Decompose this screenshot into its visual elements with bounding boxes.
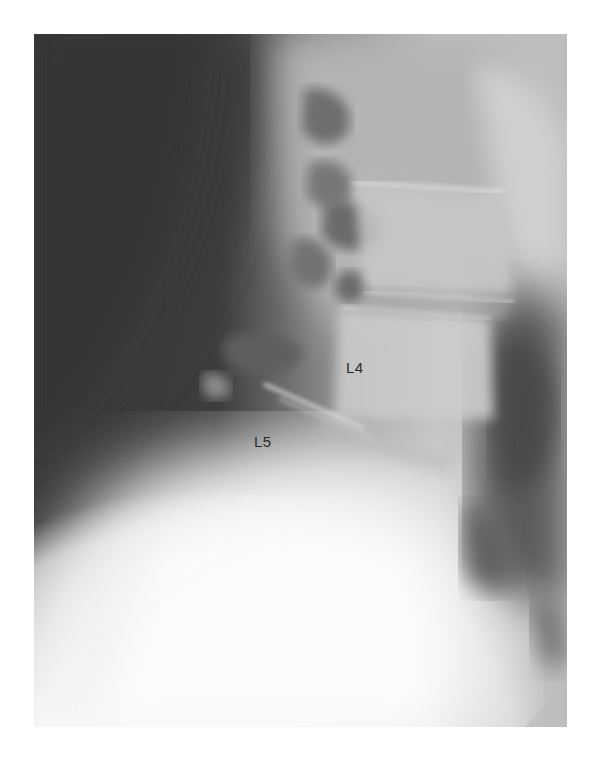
xray-rendering (34, 34, 567, 727)
vertebra-label-l4: L4 (346, 360, 364, 375)
xray-image: L4 L5 (34, 34, 567, 727)
vertebra-label-l5: L5 (254, 434, 272, 449)
